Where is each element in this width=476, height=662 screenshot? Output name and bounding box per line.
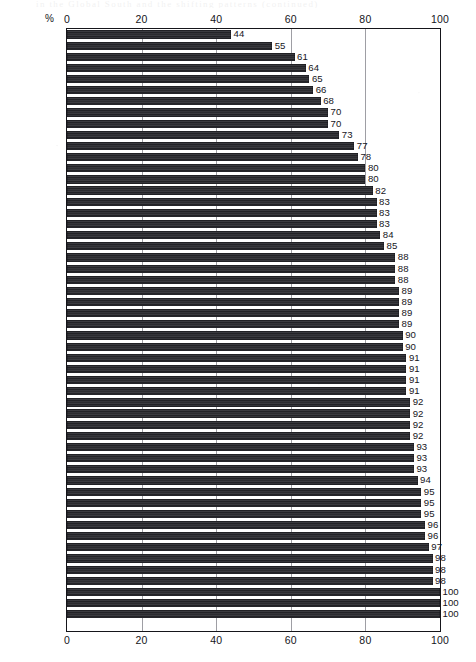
bar-canada [67, 521, 425, 529]
bar-row: Singapore70 [67, 118, 440, 129]
bar-row: Kuwait68 [67, 96, 440, 107]
x-tick-label-top-40: 40 [210, 13, 222, 25]
bar-value-label: 89 [399, 318, 412, 329]
bar-value-label: 91 [406, 374, 419, 385]
x-axis-bottom: 020406080100 [0, 634, 476, 648]
bar-south-africa [67, 599, 440, 607]
bar-argentina [67, 387, 406, 395]
bar-row: India91 [67, 364, 440, 375]
bar-row: Pakistan91 [67, 375, 440, 386]
bar-row: China85 [67, 241, 440, 252]
x-tick-label-bottom-0: 0 [64, 634, 70, 646]
bar-row: Spain83 [67, 196, 440, 207]
bar-value-label: 96 [425, 530, 438, 541]
bar-spain [67, 198, 377, 206]
bar-venezuela [67, 30, 231, 38]
axis-line-bottom [67, 631, 440, 632]
bar-row: Venezuela44 [67, 29, 440, 40]
bar-value-label: 91 [406, 385, 419, 396]
bar-value-label: 83 [377, 218, 390, 229]
page-bleed-text: in the Global South and the shifting pat… [36, 0, 366, 8]
bar-row: Hong Kong89 [67, 285, 440, 296]
bar-value-label: 66 [313, 84, 326, 95]
bar-row: Australia98 [67, 553, 440, 564]
bar-finland [67, 566, 433, 574]
bar-france [67, 488, 421, 496]
bar-ethiopia [67, 532, 425, 540]
bar-row: Hungary82 [67, 185, 440, 196]
bar-kuwait [67, 97, 321, 105]
bar-uk [67, 465, 414, 473]
bar-row: USA92 [67, 397, 440, 408]
bar-netherlands [67, 421, 410, 429]
bar-row: UAE65 [67, 74, 440, 85]
bar-yugoslavia [67, 231, 380, 239]
x-tick-label-top-100: 100 [431, 13, 449, 25]
bar-pakistan [67, 376, 406, 384]
bar-value-label: 88 [395, 251, 408, 262]
bar-row: Russia80 [67, 174, 440, 185]
bar-value-label: 95 [421, 497, 434, 508]
bar-portugal [67, 577, 433, 585]
bar-italy [67, 265, 395, 273]
bar-denmark [67, 610, 440, 618]
bar-value-label: 89 [399, 285, 412, 296]
bar-value-label: 98 [433, 552, 446, 563]
bar-value-label: 70 [328, 118, 341, 129]
bar-value-label: 83 [377, 196, 390, 207]
bar-value-label: 100 [440, 597, 459, 608]
bar-value-label: 61 [295, 51, 308, 62]
bar-value-label: 92 [410, 408, 423, 419]
bar-row: Egypt95 [67, 497, 440, 508]
bar-row: Bulgaria73 [67, 129, 440, 140]
bar-czech-kia [67, 108, 328, 116]
bar-row: Philippines90 [67, 330, 440, 341]
x-tick-label-bottom-40: 40 [210, 634, 222, 646]
bar-japan [67, 164, 365, 172]
bar-chart: in the Global South and the shifting pat… [0, 0, 476, 662]
bar-value-label: 80 [365, 173, 378, 184]
bar-row: Thailand83 [67, 219, 440, 230]
bar-nigeria [67, 343, 403, 351]
bar-belgium [67, 510, 421, 518]
bar-row: Belgium95 [67, 508, 440, 519]
bar-value-label: 78 [358, 151, 371, 162]
bar-value-label: 83 [377, 207, 390, 218]
bar-uae [67, 75, 309, 83]
bar-norway [67, 543, 429, 551]
bar-romania [67, 86, 313, 94]
bar-row: Canada96 [67, 520, 440, 531]
bar-row: Nigeria90 [67, 341, 440, 352]
bar-austria [67, 476, 418, 484]
bar-value-label: 92 [410, 430, 423, 441]
bar-row: Poland77 [67, 141, 440, 152]
bar-value-label: 88 [395, 274, 408, 285]
bar-australia [67, 554, 433, 562]
bar-value-label: 85 [384, 240, 397, 251]
bar-value-label: 93 [414, 463, 427, 474]
bar-burkina-faso [67, 253, 395, 261]
x-tick-label-top-0: 0 [64, 13, 70, 25]
bar-value-label: 84 [380, 229, 393, 240]
bar-w-germany [67, 432, 410, 440]
bar-hungary [67, 186, 373, 194]
bar-row: Nepal61 [67, 51, 440, 62]
bar-value-label: 65 [309, 73, 322, 84]
bar-row: Italy88 [67, 263, 440, 274]
bar-value-label: 93 [414, 441, 427, 452]
bar-uruguay [67, 42, 272, 50]
bar-value-label: 70 [328, 106, 341, 117]
bar-row: Norway97 [67, 542, 440, 553]
bar-row: UK93 [67, 464, 440, 475]
bar-row: Indonesia89 [67, 319, 440, 330]
bar-oman [67, 153, 358, 161]
bar-row: Ireland93 [67, 453, 440, 464]
bar-greece [67, 309, 399, 317]
bar-row: Oman78 [67, 152, 440, 163]
bar-cura-ao [67, 443, 414, 451]
bar-india [67, 365, 406, 373]
bar-egypt [67, 499, 421, 507]
bar-value-label: 93 [414, 452, 427, 463]
bar-bulgaria [67, 131, 339, 139]
bar-row: Burkina Faso88 [67, 252, 440, 263]
